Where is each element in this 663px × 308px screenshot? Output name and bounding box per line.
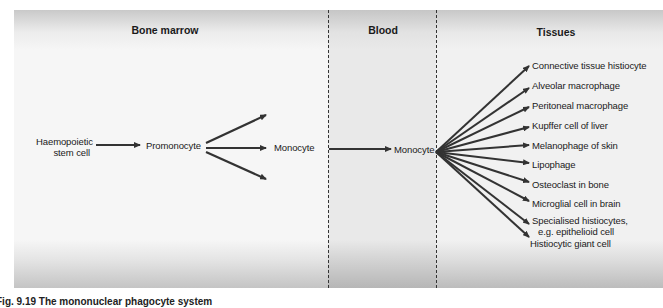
stem-cell-label-line2: stem cell [36,147,90,158]
tissue-cell-label: Alveolar macrophage [532,80,620,91]
figure-caption: Fig. 9.19 The mononuclear phagocyte syst… [0,296,212,307]
tissue-cell-label: Specialised histiocytes, [532,215,628,226]
tissue-cell-label: Kupffer cell of liver [532,120,608,131]
monocyte-blood-label: Monocyte [394,144,434,155]
tissue-cell-label: e.g. epithelioid cell [538,226,614,237]
monocyte-marrow-label: Monocyte [274,142,314,153]
tissue-cell-label: Connective tissue histiocyte [532,60,646,71]
tissue-cell-label: Microglial cell in brain [532,198,620,209]
stem-cell-label-line1: Haemopoietic [36,136,90,147]
tissue-cell-label: Osteoclast in bone [532,179,609,190]
tissue-cell-label: Peritoneal macrophage [532,100,628,111]
tissue-cell-label: Lipophage [532,159,575,170]
tissue-cell-label: Melanophage of skin [532,140,618,151]
promonocyte-label: Promonocyte [146,140,201,151]
tissue-cell-label: Histiocytic giant cell [530,238,611,249]
